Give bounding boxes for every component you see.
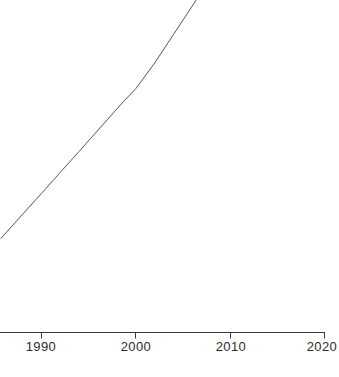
chart-container: 1990 2000 2010 2020: [0, 0, 339, 377]
x-tick-label-2000: 2000: [121, 340, 152, 353]
plot-area: [0, 0, 339, 377]
x-tick-label-2010: 2010: [216, 340, 247, 353]
x-tick-label-1990: 1990: [26, 340, 57, 353]
series-line-1: [1, 0, 196, 238]
x-tick-label-2020: 2020: [307, 340, 338, 353]
